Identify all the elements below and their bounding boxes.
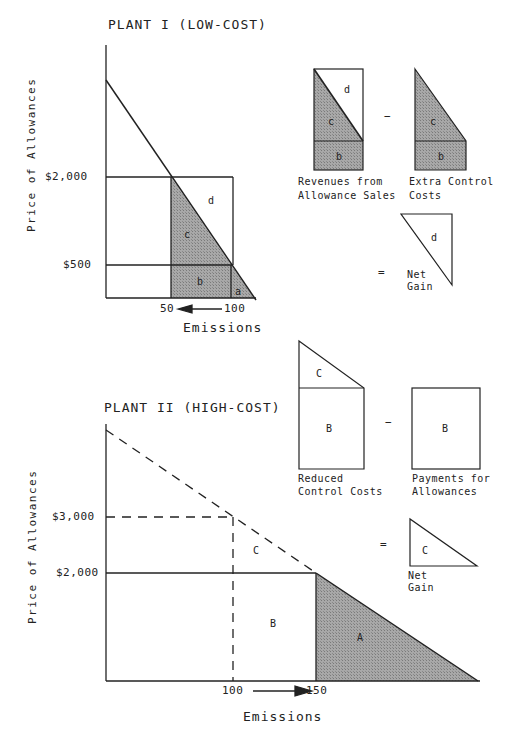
eq3-region-B: B	[326, 423, 333, 434]
extra-control-label-line1: Extra Control	[409, 176, 494, 187]
plant-2-title: PLANT II (HIGH-COST)	[104, 400, 281, 415]
payments-label-line1: Payments for	[412, 473, 490, 484]
extra-control-label-line2: Costs	[409, 190, 442, 201]
plant-1-y-axis-label: Price of Allowances	[25, 78, 38, 232]
revenues-label-line2: Allowance Sales	[298, 190, 396, 201]
payments-label-line2: Allowances	[412, 486, 477, 497]
eq1-region-d: d	[344, 84, 351, 95]
x-tick-50: 50	[160, 302, 174, 315]
net-gain-region-d: d	[431, 232, 438, 243]
revenues-label-line1: Revenues from	[298, 176, 383, 187]
y-tick-500: $500	[63, 258, 92, 271]
net-gain-label-line1: Net	[407, 269, 427, 280]
y-tick-2000-b: $2,000	[56, 566, 99, 579]
x-tick-100-b: 100	[222, 684, 243, 697]
eq2-region-b: b	[438, 151, 445, 162]
region-C-label: C	[253, 545, 260, 556]
region-B-label: B	[270, 618, 277, 629]
net-gain-label-line2: Gain	[407, 281, 433, 292]
eq3-region-C: C	[316, 368, 323, 379]
eq2-region-c: c	[430, 116, 437, 127]
net-gain-b-line1: Net	[408, 570, 428, 581]
eq1-region-b: b	[336, 151, 343, 162]
net-gain-b-line2: Gain	[408, 582, 434, 593]
plant-1-x-axis-label: Emissions	[183, 320, 262, 335]
reduced-label-line2: Control Costs	[298, 486, 383, 497]
plant-2-y-axis-label: Price of Allowances	[26, 470, 39, 624]
plant-2-chart	[106, 424, 480, 696]
region-a-label: a	[235, 286, 242, 297]
x-tick-100: 100	[224, 302, 245, 315]
plant-2-net-gain-shape	[410, 519, 477, 566]
net-gain-region-C: C	[422, 545, 429, 556]
region-A-label: A	[357, 632, 364, 643]
region-c-label: c	[184, 229, 191, 240]
minus-operator-b: −	[385, 416, 392, 429]
region-b-label: b	[197, 276, 204, 287]
equals-operator: =	[378, 266, 385, 279]
plant-1-title: PLANT I (LOW-COST)	[108, 17, 267, 32]
equals-operator-b: =	[380, 538, 387, 551]
y-tick-3000: $3,000	[52, 510, 95, 523]
region-d-label: d	[208, 195, 215, 206]
plant-1-chart	[106, 45, 256, 313]
x-tick-150: 150	[306, 684, 327, 697]
reduced-label-line1: Reduced	[298, 473, 344, 484]
minus-operator: −	[384, 110, 391, 123]
eq1-region-c: c	[328, 116, 335, 127]
eq4-region-B: B	[442, 423, 449, 434]
diagram-canvas	[0, 0, 518, 740]
y-tick-2000: $2,000	[45, 170, 88, 183]
plant-2-x-axis-label: Emissions	[243, 709, 322, 724]
reduced-control-costs-shape	[299, 341, 364, 469]
